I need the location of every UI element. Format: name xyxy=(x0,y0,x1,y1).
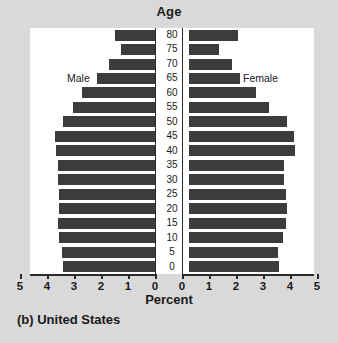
axis-tick-label: 2 xyxy=(91,280,111,292)
male-axis-line xyxy=(30,274,156,276)
age-tick-label: 5 xyxy=(155,245,189,259)
female-bar xyxy=(183,30,238,41)
female-bar xyxy=(183,145,295,156)
male-bar xyxy=(115,30,156,41)
male-bar xyxy=(62,247,155,258)
male-bar xyxy=(55,131,155,142)
female-bar xyxy=(183,73,240,84)
axis-tick xyxy=(155,274,157,279)
figure-caption: (b) United States xyxy=(17,312,120,327)
axis-tick-label: 5 xyxy=(307,280,327,292)
age-tick-label: 15 xyxy=(155,216,189,230)
female-bar xyxy=(183,87,256,98)
male-bar xyxy=(109,59,155,70)
female-bar xyxy=(183,232,283,243)
male-bar xyxy=(63,261,155,272)
axis-tick-label: 3 xyxy=(64,280,84,292)
age-tick-label: 10 xyxy=(155,231,189,245)
axis-tick-label: 3 xyxy=(253,280,273,292)
female-bar xyxy=(183,116,287,127)
male-bar xyxy=(82,87,155,98)
axis-tick-label: 1 xyxy=(118,280,138,292)
female-bar xyxy=(183,160,284,171)
age-tick-label: 30 xyxy=(155,173,189,187)
male-bar xyxy=(58,160,155,171)
percent-axis-title: Percent xyxy=(0,292,338,307)
male-bar xyxy=(59,203,155,214)
male-bar xyxy=(63,116,155,127)
age-tick-label: 20 xyxy=(155,202,189,216)
female-bar xyxy=(183,102,269,113)
male-bar xyxy=(58,218,155,229)
male-bar xyxy=(58,174,155,185)
axis-tick xyxy=(236,274,238,279)
age-tick-label: 70 xyxy=(155,57,189,71)
axis-tick xyxy=(20,274,22,279)
female-bar xyxy=(183,218,286,229)
female-bar xyxy=(183,247,278,258)
axis-tick-label: 0 xyxy=(145,280,165,292)
age-tick-label: 80 xyxy=(155,28,189,42)
male-bar xyxy=(59,232,155,243)
axis-tick xyxy=(128,274,130,279)
age-tick-label: 35 xyxy=(155,158,189,172)
axis-tick-label: 2 xyxy=(226,280,246,292)
female-bar xyxy=(183,131,294,142)
axis-tick xyxy=(74,274,76,279)
male-bar xyxy=(121,44,155,55)
axis-tick xyxy=(317,274,319,279)
axis-tick-label: 0 xyxy=(172,280,192,292)
axis-tick xyxy=(263,274,265,279)
axis-tick-label: 4 xyxy=(280,280,300,292)
female-bar xyxy=(183,203,287,214)
female-bar xyxy=(183,59,232,70)
age-tick-label: 0 xyxy=(155,260,189,274)
age-tick-label: 60 xyxy=(155,86,189,100)
axis-tick-label: 4 xyxy=(37,280,57,292)
age-axis-title: Age xyxy=(0,4,338,19)
age-tick-label: 40 xyxy=(155,144,189,158)
age-tick-label: 55 xyxy=(155,100,189,114)
female-axis-line xyxy=(182,274,314,276)
male-bar xyxy=(97,73,155,84)
percent-axis: 543210012345 xyxy=(30,274,314,275)
axis-tick-label: 5 xyxy=(10,280,30,292)
age-tick-label: 25 xyxy=(155,187,189,201)
male-series-label: Male xyxy=(67,72,90,84)
male-bar xyxy=(59,189,155,200)
male-bar xyxy=(56,145,155,156)
male-bar xyxy=(73,102,155,113)
population-pyramid-figure: Age 80757065605550454035302520151050 Mal… xyxy=(0,0,338,343)
axis-tick xyxy=(182,274,184,279)
age-tick-label: 65 xyxy=(155,71,189,85)
female-bar xyxy=(183,261,279,272)
female-bar xyxy=(183,174,284,185)
age-tick-label: 45 xyxy=(155,129,189,143)
female-bar xyxy=(183,189,286,200)
axis-tick-label: 1 xyxy=(199,280,219,292)
female-series-label: Female xyxy=(243,72,278,84)
plot-panel: 80757065605550454035302520151050 Male Fe… xyxy=(30,28,314,274)
axis-tick xyxy=(47,274,49,279)
axis-tick xyxy=(101,274,103,279)
axis-tick xyxy=(209,274,211,279)
age-tick-label: 75 xyxy=(155,42,189,56)
age-tick-label: 50 xyxy=(155,115,189,129)
axis-tick xyxy=(290,274,292,279)
